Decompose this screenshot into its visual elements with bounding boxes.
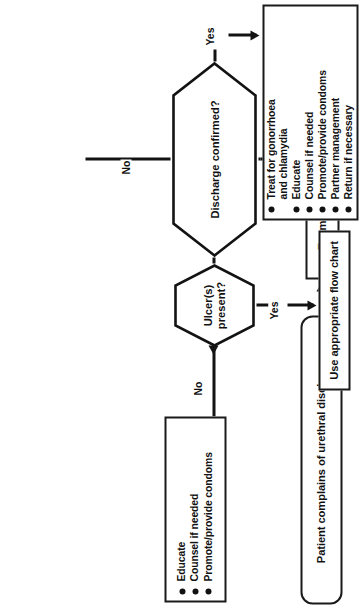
ulcer-label-line1: Ulcer(s) [201,284,213,326]
decision-discharge-confirmed: Discharge confirmed? [170,61,258,257]
edge-label-discharge-no: No [120,159,131,175]
educate-item-0: Educate [175,541,186,581]
edge-label-ulcer-yes: Yes [268,300,279,320]
list-item: Partner management [329,12,341,212]
treat-item-0-line1: Treat for gonorrhoea [265,99,276,199]
bullet-icon [319,206,325,212]
list-item: Educate [175,424,187,594]
connector-ulcer-yes-tick [256,304,268,307]
treat-item-1: Educate [290,159,301,199]
flowchart-page: Patient complains of urethral discharge … [0,0,361,612]
bullet-icon [306,206,312,212]
list-item: Return if necessary [342,12,354,212]
node-use-appropriate-flow-chart: Use appropriate flow chart [318,230,350,390]
decision-discharge-confirmed-label: Discharge confirmed? [208,96,221,222]
connector-discharge-yes-stub [258,158,260,161]
arrowhead-ulcer-to-flowchart [307,300,316,310]
decision-ulcers-present: Ulcer(s) present? [172,263,256,347]
arrowhead-discharge-to-treat [250,30,259,40]
ulcer-label-line2: present? [214,281,226,328]
connector-discharge-yes-tick [213,49,216,61]
treat-item-0-line2: and chlamydia [277,12,289,199]
treat-actions-list: Treat for gonorrhoea and chlamydia Educa… [265,6,355,218]
bullet-icon [345,206,351,212]
treat-item-2: Counsel if needed [303,111,314,199]
treat-item-4: Partner management [329,97,340,199]
connector-discharge-left-stub [212,257,215,263]
list-item: Counsel if needed [303,12,315,212]
edge-label-discharge-yes: Yes [204,26,215,46]
educate-item-1: Counsel if needed [188,493,199,581]
arrowhead-ulcer-to-educate [208,345,218,354]
edge-label-ulcer-no: No [192,380,203,396]
treat-item-3: Promote/provide condoms [316,70,327,199]
bullet-icon [192,588,198,594]
node-treat-actions: Treat for gonorrhoea and chlamydia Educa… [262,4,358,220]
bullet-icon [205,588,211,594]
list-item: Promote/provide condoms [202,424,214,594]
flowchart-canvas: Patient complains of urethral discharge … [0,0,361,612]
bullet-icon [293,206,299,212]
decision-ulcers-present-label: Ulcer(s) present? [201,277,227,332]
list-item: Counsel if needed [188,424,200,594]
bullet-icon [268,206,274,212]
list-item: Promote/provide condoms [316,12,328,212]
node-educate-actions: Educate Counsel if needed Promote/provid… [164,416,226,602]
educate-item-2: Promote/provide condoms [202,452,213,581]
list-item: Treat for gonorrhoea and chlamydia [265,12,289,212]
bullet-icon [179,588,185,594]
treat-item-5: Return if necessary [342,104,353,199]
connector-ulcer-no [212,346,215,416]
node-use-appropriate-flow-chart-label: Use appropriate flow chart [325,236,342,385]
educate-actions-list: Educate Counsel if needed Promote/provid… [175,418,214,600]
list-item: Educate [290,12,302,212]
bullet-icon [332,206,338,212]
